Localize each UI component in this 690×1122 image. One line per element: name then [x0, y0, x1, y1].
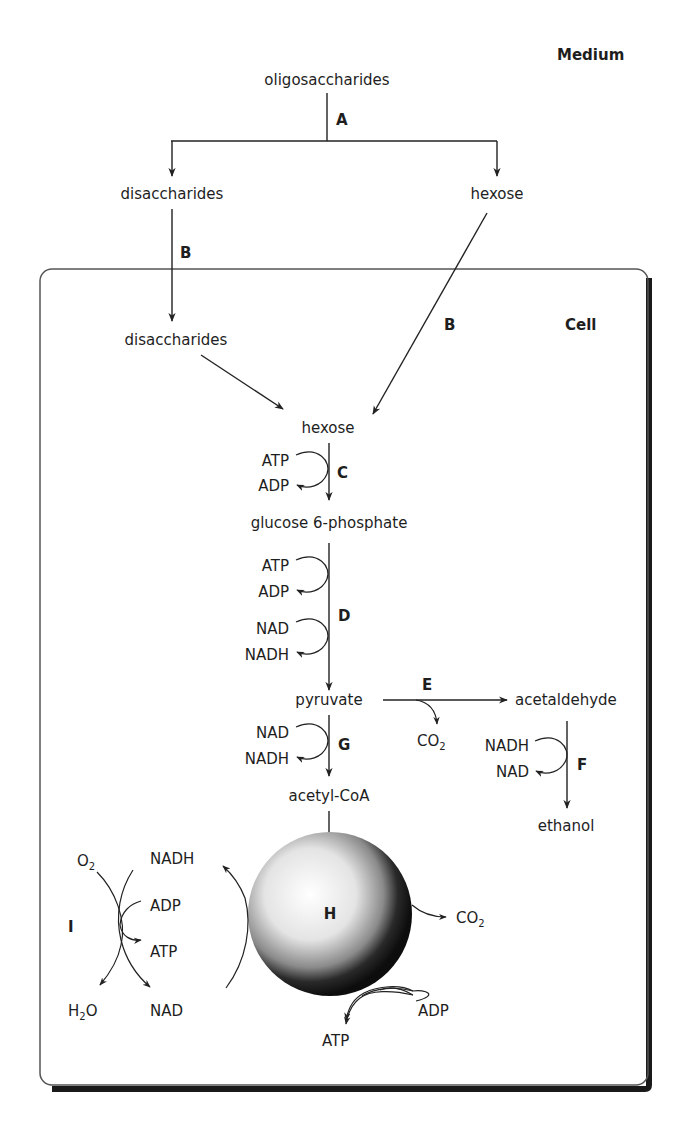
step-d-atp: ATP	[262, 557, 289, 575]
cell-label: Cell	[565, 316, 596, 334]
step-h-co2: CO2	[456, 909, 485, 929]
step-a-arrows	[171, 93, 497, 176]
step-i-nadh: NADH	[150, 850, 194, 868]
step-h-adp: ADP	[418, 1002, 449, 1020]
oligosaccharides-label: oligosaccharides	[264, 71, 389, 89]
step-e	[383, 700, 507, 724]
step-e-co2: CO2	[417, 732, 446, 752]
step-f-label: F	[577, 756, 587, 774]
step-i-o2: O2	[77, 852, 95, 872]
step-i-h2o: H2O	[68, 1002, 97, 1022]
step-i-nad: NAD	[150, 1002, 183, 1020]
step-i-arrows	[97, 870, 150, 987]
step-f-nadh: NADH	[485, 737, 529, 755]
step-i-label: I	[68, 918, 74, 936]
step-g	[296, 715, 329, 776]
step-d	[296, 543, 329, 690]
step-g-nad: NAD	[256, 724, 289, 742]
cell-disaccharides-label: disaccharides	[125, 331, 228, 349]
step-d-adp: ADP	[258, 583, 289, 601]
acetaldehyde-label: acetaldehyde	[515, 691, 617, 709]
medium-hexose-label: hexose	[470, 185, 523, 203]
step-b-left-label: B	[180, 244, 191, 262]
step-d-label: D	[338, 607, 350, 625]
step-c	[296, 443, 329, 500]
step-f	[535, 721, 567, 808]
cell-hexose-label: hexose	[301, 419, 354, 437]
pyruvate-label: pyruvate	[295, 691, 362, 709]
nadh-return-arc	[223, 866, 248, 988]
step-h-adp-arrow	[346, 988, 413, 1024]
step-h-label: H	[324, 905, 337, 923]
transport-hexose-arrow	[373, 213, 487, 414]
disaccharides-to-hexose-arrow	[201, 355, 283, 409]
step-g-nadh: NADH	[245, 750, 289, 768]
step-d-nad: NAD	[256, 620, 289, 638]
glucose-6-phosphate-label: glucose 6-phosphate	[251, 514, 408, 532]
step-c-adp: ADP	[258, 477, 289, 495]
step-h-atp: ATP	[322, 1032, 349, 1050]
step-a-label: A	[336, 111, 348, 129]
step-c-atp: ATP	[262, 452, 289, 470]
metabolic-pathway-diagram: Medium Cell oligosaccharides A disacchar…	[0, 0, 690, 1122]
step-g-label: G	[338, 736, 350, 754]
medium-disaccharides-label: disaccharides	[121, 185, 224, 203]
step-e-label: E	[422, 676, 432, 694]
step-b-right-label: B	[444, 316, 455, 334]
ethanol-label: ethanol	[538, 817, 595, 835]
medium-label: Medium	[557, 46, 624, 64]
step-d-nadh: NADH	[245, 646, 289, 664]
step-i-atp: ATP	[150, 943, 177, 961]
step-i-adp: ADP	[150, 897, 181, 915]
step-c-label: C	[337, 464, 348, 482]
step-f-nad: NAD	[496, 763, 529, 781]
acetyl-coa-label: acetyl-CoA	[289, 787, 371, 805]
